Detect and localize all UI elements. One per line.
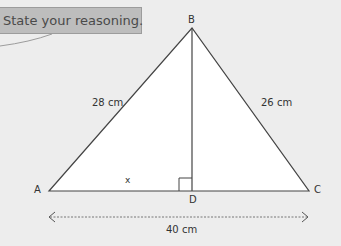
triangle-diagram xyxy=(0,0,341,246)
vertex-label-d: D xyxy=(189,194,197,205)
vertex-label-a: A xyxy=(34,184,41,195)
callout-tail xyxy=(0,34,52,46)
triangle-abc xyxy=(49,28,309,191)
vertex-label-c: C xyxy=(314,184,321,195)
side-label-ac: 40 cm xyxy=(166,224,197,235)
side-label-ad: x xyxy=(125,175,130,185)
side-label-ab: 28 cm xyxy=(92,97,123,108)
vertex-label-b: B xyxy=(188,14,195,25)
reasoning-callout: State your reasoning. xyxy=(0,7,142,34)
side-label-bc: 26 cm xyxy=(261,97,292,108)
